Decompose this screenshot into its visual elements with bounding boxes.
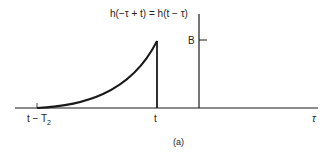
- y-tick-label: B: [188, 36, 195, 46]
- function-label: h(−τ + t) = h(t − τ): [110, 9, 188, 19]
- plot-svg: [0, 0, 330, 161]
- x-label-start-subscript: 2: [47, 119, 51, 126]
- x-label-start: t − T2: [27, 114, 51, 126]
- impulse-response-curve: [37, 41, 157, 108]
- x-label-axis: τ: [312, 114, 316, 124]
- x-label-peak: t: [154, 114, 157, 124]
- figure: h(−τ + t) = h(t − τ) B t − T2 t τ (a): [0, 0, 330, 161]
- caption: (a): [173, 138, 184, 147]
- x-label-start-text: t − T: [27, 113, 47, 124]
